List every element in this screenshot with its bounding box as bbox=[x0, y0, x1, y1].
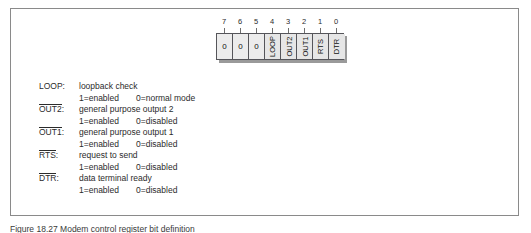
legend-state-off: 0=disabled bbox=[136, 162, 177, 172]
legend-mnemonic-overbar-text: OUT2 bbox=[39, 104, 62, 115]
legend-mnemonic: OUT2: bbox=[39, 104, 79, 115]
legend-description: general purpose output 2 bbox=[79, 104, 174, 114]
legend-entry-head: RTS: request to send bbox=[39, 150, 195, 161]
bit-cell-label: OUT2 bbox=[284, 36, 293, 56]
bit-number: 5 bbox=[248, 17, 264, 28]
bit-cell-label: LOOP bbox=[268, 36, 277, 57]
bit-number: 3 bbox=[280, 17, 296, 28]
register-bit-diagram: 7 6 5 4 3 2 1 0 0 0 bbox=[216, 17, 316, 60]
bit-cell-label: DTR bbox=[332, 39, 341, 54]
bit-number-row: 7 6 5 4 3 2 1 0 bbox=[216, 17, 316, 28]
legend-mnemonic-text: LOOP: bbox=[39, 82, 65, 92]
legend-entry-states: 1=enabled 0=disabled bbox=[79, 185, 195, 195]
legend-entry-states: 1=enabled 0=disabled bbox=[79, 139, 195, 149]
legend-mnemonic: OUT1: bbox=[39, 127, 79, 138]
legend-state-on: 1=enabled bbox=[79, 139, 136, 149]
legend-entry-head: OUT2: general purpose output 2 bbox=[39, 104, 195, 115]
bit-number: 7 bbox=[216, 17, 232, 28]
legend-description: data terminal ready bbox=[79, 173, 152, 183]
legend-state-on: 1=enabled bbox=[79, 185, 136, 195]
legend-entry-head: OUT1: general purpose output 1 bbox=[39, 127, 195, 138]
bit-cell-4-loop: LOOP bbox=[265, 34, 281, 59]
legend-state-off: 0=disabled bbox=[136, 116, 177, 126]
bit-number: 6 bbox=[232, 17, 248, 28]
figure-frame: 7 6 5 4 3 2 1 0 0 0 bbox=[10, 8, 519, 216]
bit-number: 2 bbox=[296, 17, 312, 28]
bit-cell-6: 0 bbox=[233, 34, 249, 59]
bit-cell-5: 0 bbox=[249, 34, 265, 59]
legend-entry-out1: OUT1: general purpose output 1 1=enabled… bbox=[39, 127, 195, 149]
bit-cell-1-rts: RTS bbox=[313, 34, 329, 59]
legend-entry-head: LOOP: loopback check bbox=[39, 81, 195, 92]
bit-number: 0 bbox=[328, 17, 344, 28]
legend-entry-out2: OUT2: general purpose output 2 1=enabled… bbox=[39, 104, 195, 126]
byte-cell-row: 0 0 0 LOOP OUT2 OUT1 RTS bbox=[216, 33, 344, 60]
legend-mnemonic: RTS: bbox=[39, 150, 79, 161]
legend-mnemonic: DTR: bbox=[39, 173, 79, 184]
legend-mnemonic-overbar-text: RTS bbox=[39, 150, 56, 161]
bit-cell-label: 0 bbox=[222, 42, 226, 51]
legend-state-on: 1=enabled bbox=[79, 116, 136, 126]
legend-mnemonic: LOOP: bbox=[39, 81, 79, 92]
figure-caption: Figure 18.27 Modem control register bit … bbox=[10, 224, 195, 233]
bit-cell-3-out2: OUT2 bbox=[281, 34, 297, 59]
legend-entry-rts: RTS: request to send 1=enabled 0=disable… bbox=[39, 150, 195, 172]
bit-cell-7: 0 bbox=[217, 34, 233, 59]
legend-state-off: 0=normal mode bbox=[136, 93, 195, 103]
legend-description: general purpose output 1 bbox=[79, 127, 174, 137]
byte-cells-wrapper: 0 0 0 LOOP OUT2 OUT1 RTS bbox=[216, 33, 316, 60]
legend-state-on: 1=enabled bbox=[79, 93, 136, 103]
bit-cell-label: 0 bbox=[238, 42, 242, 51]
bit-cell-2-out1: OUT1 bbox=[297, 34, 313, 59]
bit-cell-label: OUT1 bbox=[300, 36, 309, 56]
legend-entry-loop: LOOP: loopback check 1=enabled 0=normal … bbox=[39, 81, 195, 103]
bit-cell-0-dtr: DTR bbox=[329, 34, 345, 59]
legend-state-on: 1=enabled bbox=[79, 162, 136, 172]
legend-mnemonic-overbar-text: OUT1 bbox=[39, 127, 62, 138]
bit-cell-label: 0 bbox=[254, 42, 258, 51]
legend-entry-states: 1=enabled 0=disabled bbox=[79, 162, 195, 172]
legend-state-off: 0=disabled bbox=[136, 139, 177, 149]
legend-description: loopback check bbox=[79, 81, 138, 91]
legend-entry-states: 1=enabled 0=disabled bbox=[79, 116, 195, 126]
bit-cell-label: RTS bbox=[316, 39, 325, 54]
legend-entry-head: DTR: data terminal ready bbox=[39, 173, 195, 184]
bit-number: 1 bbox=[312, 17, 328, 28]
legend-mnemonic-overbar-text: DTR bbox=[39, 173, 56, 184]
legend-entry-dtr: DTR: data terminal ready 1=enabled 0=dis… bbox=[39, 173, 195, 195]
legend-entry-states: 1=enabled 0=normal mode bbox=[79, 93, 195, 103]
bit-number: 4 bbox=[264, 17, 280, 28]
bit-definition-legend: LOOP: loopback check 1=enabled 0=normal … bbox=[39, 81, 195, 196]
legend-description: request to send bbox=[79, 150, 138, 160]
legend-state-off: 0=disabled bbox=[136, 185, 177, 195]
